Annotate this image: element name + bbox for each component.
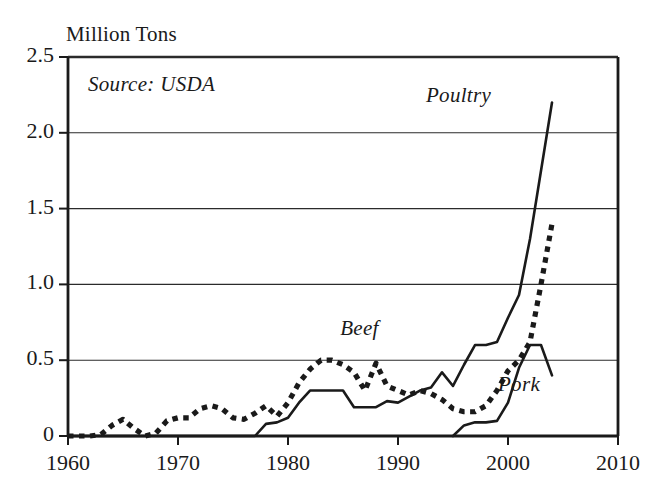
y-tick-label-0: 0 bbox=[0, 421, 54, 447]
data-series-group bbox=[68, 102, 552, 436]
chart-plot-svg bbox=[0, 0, 666, 503]
series-label-pork: Pork bbox=[498, 372, 540, 397]
series-line-beef bbox=[68, 224, 552, 436]
x-tick-label-1970: 1970 bbox=[123, 450, 233, 476]
y-tick-label-1: 1.0 bbox=[0, 269, 54, 295]
series-line-poultry bbox=[68, 102, 552, 436]
series-label-beef: Beef bbox=[340, 316, 379, 341]
y-tick-label-0.5: 0.5 bbox=[0, 345, 54, 371]
x-tick-label-2010: 2010 bbox=[563, 450, 666, 476]
x-tick-label-2000: 2000 bbox=[453, 450, 563, 476]
y-tick-label-2.5: 2.5 bbox=[0, 42, 54, 68]
x-tick-label-1980: 1980 bbox=[233, 450, 343, 476]
y-tick-label-1.5: 1.5 bbox=[0, 194, 54, 220]
series-label-poultry: Poultry bbox=[426, 82, 491, 107]
x-tick-label-1990: 1990 bbox=[343, 450, 453, 476]
chart-figure: Million Tons Source: USDA 00.51.01.52.02… bbox=[0, 0, 666, 503]
y-tick-label-2: 2.0 bbox=[0, 118, 54, 144]
x-tick-label-1960: 1960 bbox=[13, 450, 123, 476]
